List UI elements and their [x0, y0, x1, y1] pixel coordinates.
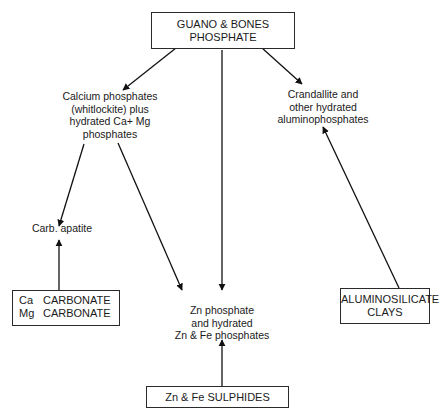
node-calcium-phosphates: Calcium phosphates (whitlockite) plus hy…: [40, 90, 180, 140]
carbonate-label: CARBONATE: [43, 294, 111, 307]
node-guano-bones-phosphate: GUANO & BONES PHOSPHATE: [151, 12, 295, 49]
node-text: PHOSPHATE: [152, 31, 294, 44]
node-text: aluminophosphates: [270, 113, 376, 126]
node-carbonate: Ca CARBONATE Mg CARBONATE: [12, 290, 120, 326]
carbonate-label: CARBONATE: [43, 307, 111, 320]
carbonate-row-mg: Mg CARBONATE: [19, 307, 119, 320]
arrow-aluminosilicate-to-crandallite: [323, 127, 399, 288]
node-crandallite: Crandallite and other hydrated aluminoph…: [270, 88, 376, 126]
node-text: phosphates: [40, 128, 180, 141]
arrow-guano-to-calcium: [123, 48, 176, 90]
node-zn-fe-sulphides: Zn & Fe SULPHIDES: [146, 386, 289, 408]
arrow-calcium-to-carb-apatite: [59, 144, 84, 226]
arrow-guano-to-crandallite: [262, 48, 302, 84]
node-text: Crandallite and: [270, 88, 376, 101]
node-text: ALUMINOSILICATE: [341, 293, 429, 306]
node-carb-apatite: Carb. apatite: [22, 222, 102, 235]
node-text: Zn phosphate: [166, 304, 278, 317]
node-text: (whitlockite) plus: [40, 103, 180, 116]
node-text: CLAYS: [341, 306, 429, 319]
node-text: Zn & Fe SULPHIDES: [147, 391, 288, 404]
node-text: Calcium phosphates: [40, 90, 180, 103]
node-text: hydrated Ca+ Mg: [40, 115, 180, 128]
node-text: other hydrated: [270, 101, 376, 114]
node-zn-phosphate: Zn phosphate and hydrated Zn & Fe phosph…: [166, 304, 278, 342]
node-text: Carb. apatite: [22, 222, 102, 235]
element-symbol: Mg: [19, 307, 43, 320]
arrow-calcium-to-zn-phosphate: [118, 143, 182, 290]
node-text: GUANO & BONES: [152, 18, 294, 31]
node-text: and hydrated: [166, 317, 278, 330]
arrows-layer: [0, 0, 440, 420]
element-symbol: Ca: [19, 294, 43, 307]
node-text: Zn & Fe phosphates: [166, 329, 278, 342]
carbonate-row-ca: Ca CARBONATE: [19, 294, 119, 307]
node-aluminosilicate-clays: ALUMINOSILICATE CLAYS: [340, 288, 430, 324]
